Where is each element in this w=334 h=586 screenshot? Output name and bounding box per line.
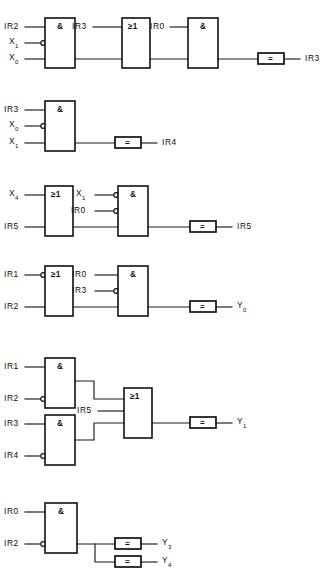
and-gate-1-label: & (57, 22, 63, 31)
label-ir4-row5: IR4 (4, 450, 19, 460)
label-x0-sub: 0 (15, 59, 19, 65)
label-ir1-row4: IR1 (4, 269, 19, 279)
or-gate-1-label: ≥1 (128, 22, 138, 31)
logic-diagram: & IR2 X 1 X 0 IR3 ≥1 IR0 & = IR3 & IR3 X… (0, 0, 334, 586)
label-x1-sub-row2: 1 (15, 143, 19, 149)
and-gate-row2-label: & (57, 105, 63, 114)
row-6-group: IR0 IR2 & = Y 3 = Y 4 (4, 503, 172, 568)
wire-and5u-to-or (75, 381, 124, 399)
label-ir1-row5: IR1 (4, 361, 19, 371)
row-3-group: X 4 IR5 ≥1 X 1 IR0 & = IR5 (4, 186, 252, 236)
label-out-ir3: IR3 (305, 53, 320, 63)
and-gate-row3-label: & (130, 190, 136, 199)
eq-symbol-y3: = (125, 539, 130, 548)
wire-and6-branch (95, 544, 115, 562)
label-ir5-row5: IR5 (77, 405, 92, 415)
row-2-group: & IR3 X 0 X 1 = IR4 (4, 101, 177, 151)
label-x1-sub: 1 (15, 43, 19, 49)
label-x4-sub: 4 (15, 195, 19, 201)
label-ir2-row5: IR2 (4, 393, 19, 403)
or-gate-row4-label: ≥1 (51, 270, 61, 279)
eq-symbol-row2: = (125, 138, 130, 147)
row-4-group: IR1 IR2 ≥1 IR0 IR3 & = Y 0 (4, 266, 247, 316)
eq-symbol-row5: = (200, 418, 205, 427)
or-gate-row5-label: ≥1 (130, 392, 140, 401)
and-gate-row6-label: & (58, 507, 64, 516)
and-gate-row4-label: & (130, 270, 136, 279)
label-x1-sub-row3: 1 (82, 195, 86, 201)
and-gate-2-label: & (200, 22, 206, 31)
label-out-y1-sub: 1 (243, 423, 247, 429)
label-ir3-row2: IR3 (4, 104, 19, 114)
eq-symbol-row4: = (200, 302, 205, 311)
or-gate-row3-label: ≥1 (51, 190, 61, 199)
label-ir5-row3: IR5 (4, 221, 19, 231)
label-out-ir5: IR5 (237, 221, 252, 231)
and-gate-row5-upper-label: & (57, 362, 63, 371)
label-ir2-row4: IR2 (4, 301, 19, 311)
label-ir0-row4: IR0 (72, 269, 87, 279)
label-ir2: IR2 (4, 21, 19, 31)
eq-symbol-y4: = (125, 557, 130, 566)
label-ir3-row5: IR3 (4, 418, 19, 428)
label-ir0-row6: IR0 (4, 506, 19, 516)
label-out-y3-sub: 3 (168, 544, 172, 550)
label-out-y4-sub: 4 (168, 562, 172, 568)
label-ir0-row1: IR0 (150, 21, 165, 31)
row-1-group: & IR2 X 1 X 0 IR3 ≥1 IR0 & = IR3 (4, 18, 320, 68)
schematic-canvas: & IR2 X 1 X 0 IR3 ≥1 IR0 & = IR3 & IR3 X… (0, 0, 334, 586)
wire-and5l-to-or (75, 423, 124, 440)
label-ir2-row6: IR2 (4, 538, 19, 548)
label-ir3-row1: IR3 (72, 21, 87, 31)
and-gate-row5-lower-label: & (57, 419, 63, 428)
eq-symbol-row3: = (200, 222, 205, 231)
eq-symbol-row1: = (268, 54, 273, 63)
row-5-group: IR1 IR2 & IR3 IR4 & IR5 ≥1 = Y 1 (4, 358, 247, 465)
label-ir0-row3: IR0 (71, 205, 86, 215)
label-out-y0-sub: 0 (243, 307, 247, 313)
label-ir3-row4: IR3 (72, 285, 87, 295)
label-out-ir4: IR4 (162, 137, 177, 147)
label-x0-sub-row2: 0 (15, 126, 19, 132)
